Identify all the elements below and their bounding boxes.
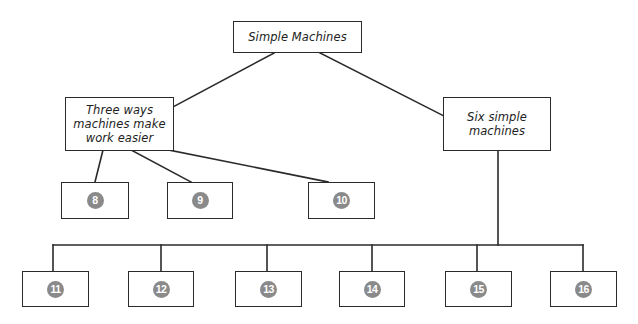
branch-label-three-ways: Three ways machines make work easier [73, 103, 165, 145]
blank-box-11[interactable]: 11 [22, 271, 89, 307]
number-badge: 13 [260, 281, 277, 298]
blank-box-14[interactable]: 14 [339, 271, 405, 307]
connector-left-8 [95, 150, 103, 182]
blank-box-16[interactable]: 16 [550, 271, 617, 307]
number-badge: 14 [364, 281, 381, 298]
number-badge: 11 [47, 281, 64, 298]
connector-root-right [320, 53, 444, 116]
blank-box-12[interactable]: 12 [128, 271, 194, 307]
blank-box-10[interactable]: 10 [308, 182, 375, 219]
branch-node-six-machines: Six simple machines [443, 97, 551, 151]
blank-box-15[interactable]: 15 [445, 271, 512, 307]
number-badge: 8 [87, 192, 104, 209]
number-badge: 9 [192, 192, 209, 209]
blank-box-9[interactable]: 9 [167, 182, 233, 219]
root-node: Simple Machines [233, 21, 362, 53]
number-badge: 16 [575, 281, 592, 298]
blank-box-13[interactable]: 13 [235, 271, 302, 307]
number-badge: 10 [333, 192, 350, 209]
blank-box-8[interactable]: 8 [61, 182, 129, 219]
branch-node-three-ways: Three ways machines make work easier [65, 97, 174, 151]
connector-left-10 [169, 150, 328, 182]
connector-left-9 [131, 150, 191, 182]
root-label: Simple Machines [248, 30, 347, 44]
number-badge: 12 [153, 281, 170, 298]
branch-label-six-machines: Six simple machines [467, 110, 527, 138]
connector-root-left [171, 53, 274, 108]
number-badge: 15 [470, 281, 487, 298]
concept-map: Simple Machines Three ways machines make… [0, 0, 638, 324]
